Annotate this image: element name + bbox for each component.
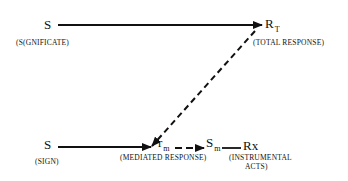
significate-caption: (S(GNIFICATE) [16,38,69,47]
instrumental-caption-line2: ACTS) [245,162,268,171]
mediation-diagram: S (S(GNIFICATE) RT (TOTAL RESPONSE) S (S… [0,0,348,181]
mediated-response-node: rm [158,136,170,151]
significate-node: S [44,18,51,31]
total-response-subscript: T [275,25,280,34]
total-response-caption: (TOTAL RESPONSE) [253,38,324,47]
mediated-stimulus-symbol: S [206,135,213,150]
mediated-stimulus-subscript: m [214,144,220,153]
total-response-symbol: R [265,16,274,31]
sign-caption: (SIGN) [35,157,59,166]
mediated-response-subscript: m [163,144,169,153]
mediated-response-caption: (MEDIATED RESPONSE) [120,153,207,162]
instrumental-acts-node: Rx [243,139,258,152]
mediated-stimulus-node: Sm [206,136,220,151]
mediated-response-symbol: r [158,135,162,150]
instrumental-caption-line1: (INSTRUMENTAL [229,153,292,162]
total-response-node: RT [265,17,280,32]
sign-node: S [44,138,51,151]
total-to-mediated-response-dashed-arrow [152,31,255,146]
